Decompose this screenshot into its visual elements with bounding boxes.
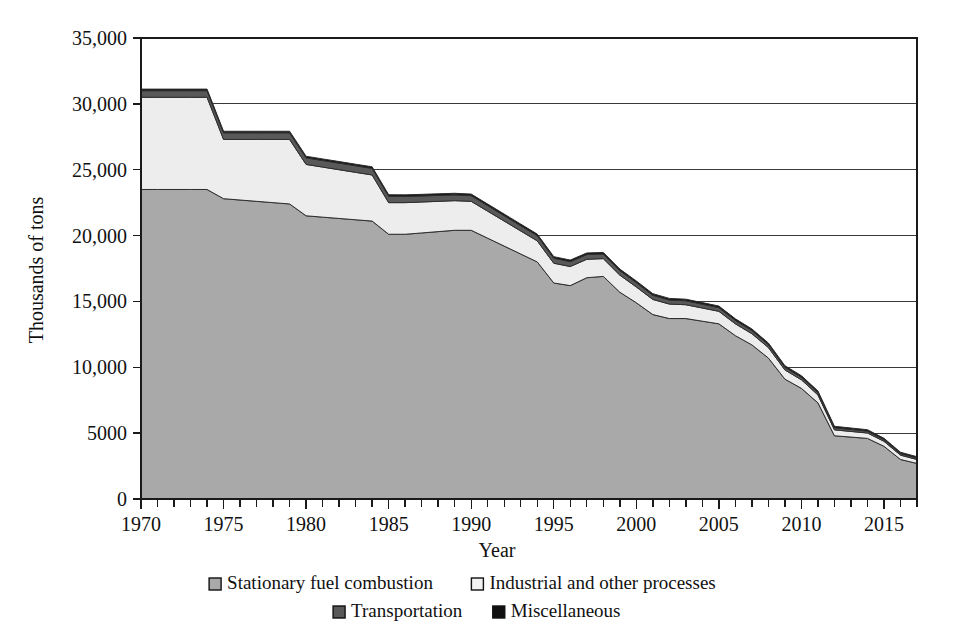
- legend-swatch: [333, 606, 345, 618]
- y-tick-label: 30,000: [72, 93, 127, 115]
- y-tick-label: 25,000: [72, 159, 127, 181]
- x-tick-label: 1990: [451, 513, 491, 535]
- x-tick-label: 2010: [781, 513, 821, 535]
- legend-label: Transportation: [351, 600, 463, 621]
- y-tick-label: 35,000: [72, 27, 127, 49]
- y-axis-title: Thousands of tons: [25, 196, 47, 343]
- stacked-area-chart: 1970197519801985199019952000200520102015…: [0, 0, 955, 639]
- legend-swatch: [471, 578, 483, 590]
- y-tick-label: 20,000: [72, 225, 127, 247]
- x-tick-label: 2000: [616, 513, 656, 535]
- legend-item[interactable]: Stationary fuel combustion: [209, 572, 433, 593]
- x-tick-label: 1975: [204, 513, 244, 535]
- x-tick-label: 2015: [864, 513, 904, 535]
- legend-item[interactable]: Miscellaneous: [493, 600, 621, 621]
- x-tick-label: 2005: [699, 513, 739, 535]
- legend-swatch: [493, 606, 505, 618]
- x-tick-label: 1980: [286, 513, 326, 535]
- legend-swatch: [209, 578, 221, 590]
- legend-label: Industrial and other processes: [489, 572, 715, 593]
- y-tick-label: 5000: [87, 422, 127, 444]
- x-tick-label: 1995: [534, 513, 574, 535]
- x-tick-label: 1985: [369, 513, 409, 535]
- legend-label: Stationary fuel combustion: [227, 572, 433, 593]
- x-tick-label: 1970: [121, 513, 161, 535]
- legend-item[interactable]: Industrial and other processes: [471, 572, 715, 593]
- y-tick-label: 0: [117, 488, 127, 510]
- y-tick-label: 15,000: [72, 290, 127, 312]
- chart-container: 1970197519801985199019952000200520102015…: [0, 0, 955, 639]
- x-axis-title: Year: [479, 539, 516, 561]
- y-tick-label: 10,000: [72, 356, 127, 378]
- legend-label: Miscellaneous: [511, 600, 621, 621]
- legend-item[interactable]: Transportation: [333, 600, 463, 621]
